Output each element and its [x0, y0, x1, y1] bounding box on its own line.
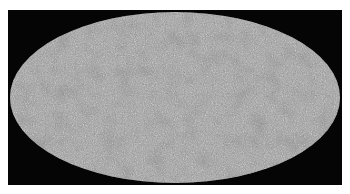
mollweide-ellipse — [0, 0, 350, 194]
sky-map — [0, 0, 350, 194]
